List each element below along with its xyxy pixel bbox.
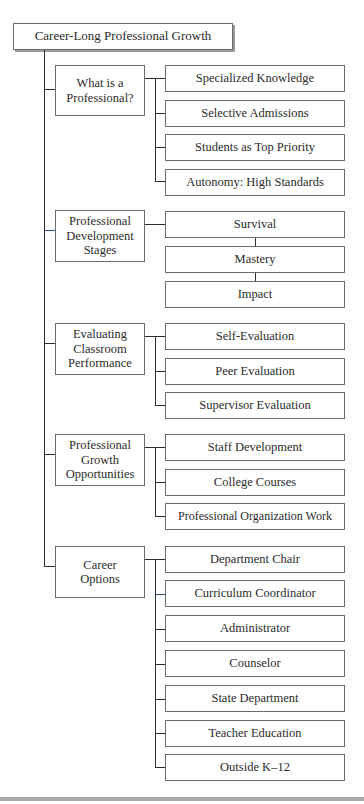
item-label: Students as Top Priority	[195, 140, 315, 155]
connector	[155, 516, 165, 517]
item-college-courses: College Courses	[165, 469, 345, 496]
connector	[155, 371, 165, 372]
item-self-evaluation: Self-Evaluation	[165, 323, 345, 350]
item-outside-k12: Outside K–12	[165, 754, 345, 781]
connector	[155, 664, 165, 665]
trunk-connector	[44, 50, 45, 567]
item-label: Survival	[234, 217, 276, 232]
item-label: Impact	[238, 287, 273, 302]
category-career-options: Career Options	[55, 546, 145, 598]
connector	[155, 405, 165, 406]
connector	[155, 699, 165, 700]
connector	[155, 147, 165, 148]
category-label: Professional Development Stages	[56, 214, 144, 258]
item-administrator: Administrator	[165, 615, 345, 642]
item-label: Outside K–12	[220, 760, 290, 775]
connector	[44, 230, 55, 231]
connector	[44, 566, 55, 567]
root-label: Career-Long Professional Growth	[35, 29, 212, 44]
item-impact: Impact	[165, 281, 345, 308]
item-label: Mastery	[235, 252, 276, 267]
item-label: Autonomy: High Standards	[186, 175, 324, 190]
item-staff-development: Staff Development	[165, 434, 345, 461]
item-curriculum-coordinator: Curriculum Coordinator	[165, 580, 345, 607]
item-label: Department Chair	[210, 552, 300, 567]
item-counselor: Counselor	[165, 650, 345, 677]
item-label: State Department	[211, 691, 298, 706]
branch-connector	[155, 78, 156, 182]
item-state-department: State Department	[165, 685, 345, 712]
item-label: Self-Evaluation	[216, 329, 294, 344]
item-label: Specialized Knowledge	[196, 71, 314, 86]
connector	[155, 181, 165, 182]
category-what-is-a-professional: What is a Professional?	[55, 65, 145, 116]
item-label: Staff Development	[208, 440, 303, 455]
item-survival: Survival	[165, 211, 345, 238]
item-label: Curriculum Coordinator	[194, 586, 315, 601]
connector	[145, 224, 165, 225]
item-professional-organization-work: Professional Organization Work	[165, 503, 345, 530]
item-label: Teacher Education	[208, 726, 301, 741]
category-label: Evaluating Classroom Performance	[56, 327, 144, 371]
category-evaluating-classroom-performance: Evaluating Classroom Performance	[55, 323, 145, 375]
connector	[155, 629, 165, 630]
root-node: Career-Long Professional Growth	[13, 23, 233, 50]
item-label: Counselor	[229, 656, 280, 671]
connector	[44, 89, 55, 90]
connector	[44, 454, 55, 455]
item-selective-admissions: Selective Admissions	[165, 100, 345, 127]
item-label: Administrator	[220, 621, 290, 636]
item-autonomy-high-standards: Autonomy: High Standards	[165, 169, 345, 196]
category-label: Career Options	[56, 558, 144, 587]
item-teacher-education: Teacher Education	[165, 720, 345, 747]
connector	[44, 343, 55, 344]
connector	[155, 767, 165, 768]
connector	[155, 594, 165, 595]
item-peer-evaluation: Peer Evaluation	[165, 358, 345, 385]
item-label: Professional Organization Work	[178, 509, 332, 524]
item-label: Selective Admissions	[201, 106, 308, 121]
item-specialized-knowledge: Specialized Knowledge	[165, 65, 345, 92]
item-department-chair: Department Chair	[165, 546, 345, 573]
item-students-as-top-priority: Students as Top Priority	[165, 134, 345, 161]
item-label: Supervisor Evaluation	[199, 398, 310, 413]
category-label: What is a Professional?	[56, 76, 144, 105]
category-label: Professional Growth Opportunities	[56, 438, 144, 482]
stage-connector	[255, 237, 256, 246]
category-professional-development-stages: Professional Development Stages	[55, 210, 145, 262]
item-supervisor-evaluation: Supervisor Evaluation	[165, 392, 345, 419]
item-label: College Courses	[214, 475, 296, 490]
bottom-divider	[0, 797, 364, 801]
item-label: Peer Evaluation	[215, 364, 295, 379]
connector	[155, 482, 165, 483]
connector	[155, 113, 165, 114]
item-mastery: Mastery	[165, 246, 345, 273]
connector	[155, 733, 165, 734]
category-professional-growth-opportunities: Professional Growth Opportunities	[55, 434, 145, 486]
